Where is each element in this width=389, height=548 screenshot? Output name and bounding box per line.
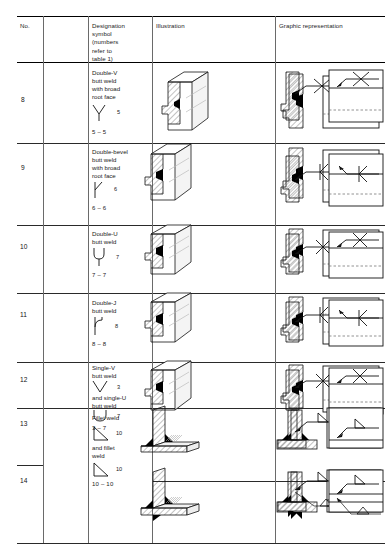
row-11-symbolic-plan bbox=[327, 296, 389, 352]
row-8-pair: 5 – 5 bbox=[92, 129, 106, 135]
row-13-fillet-symbol-icon bbox=[91, 426, 113, 442]
header-no-label: No. bbox=[20, 22, 30, 29]
row-11-double-j-symbol-icon bbox=[91, 316, 113, 336]
row-14-pair-text: 10 – 10 bbox=[92, 481, 113, 487]
row-12-num-1-text: 3 bbox=[117, 384, 120, 390]
row-14-pair: 10 – 10 bbox=[92, 481, 113, 487]
row-14-number: 14 bbox=[20, 477, 27, 484]
row-10-num-text: 7 bbox=[116, 254, 119, 260]
row-9-double-bevel-symbol-icon bbox=[91, 181, 113, 199]
row-11-illustration bbox=[141, 290, 213, 350]
header-designation-line-3: (numbers bbox=[92, 38, 148, 46]
rule-top bbox=[17, 16, 385, 17]
row-8-num-text: 5 bbox=[117, 109, 120, 115]
col-rule-graphic bbox=[275, 16, 276, 543]
header-illustration: Illustration bbox=[156, 22, 266, 30]
row-8-illustration bbox=[158, 68, 230, 140]
row-8-name-2: butt weld bbox=[92, 77, 150, 85]
row-13-symbol-number: 10 bbox=[116, 430, 122, 436]
row-8-name-1: Double-V bbox=[92, 69, 150, 77]
rule-row-13-14-numcol bbox=[17, 465, 43, 466]
row-13-no-text: 13 bbox=[20, 420, 27, 427]
row-12-symbol-number-1: 3 bbox=[117, 384, 120, 390]
header-designation: Designation symbol (numbers refer to tab… bbox=[92, 22, 148, 63]
row-8-symbol-number: 5 bbox=[117, 109, 120, 115]
rule-page-bottom bbox=[17, 543, 385, 544]
row-13-symbolic-plan bbox=[327, 406, 389, 460]
row-8-double-v-symbol-icon bbox=[91, 104, 115, 122]
welding-symbol-table-page: No. Designation symbol (numbers refer to… bbox=[0, 0, 389, 548]
header-graphic: Graphic representation bbox=[279, 22, 389, 30]
row-9-pair-text: 6 – 6 bbox=[92, 205, 106, 211]
col-rule-no bbox=[43, 16, 44, 543]
row-8-symbolic-plan bbox=[327, 66, 389, 130]
row-11-pair-text: 8 – 8 bbox=[92, 341, 106, 347]
row-10-symbol-number: 7 bbox=[116, 254, 119, 260]
row-9-num-text: 6 bbox=[114, 186, 117, 192]
row-13-number: 13 bbox=[20, 420, 27, 427]
row-11-pair: 8 – 8 bbox=[92, 341, 106, 347]
row-13-num-text: 10 bbox=[116, 430, 122, 436]
header-graphic-label: Graphic representation bbox=[279, 22, 343, 29]
row-10-double-u-symbol-icon bbox=[91, 247, 115, 267]
row-14-no-text: 14 bbox=[20, 477, 27, 484]
rule-header-bottom bbox=[17, 62, 385, 63]
row-14-symbolic-plan bbox=[327, 468, 389, 524]
row-14-name-2: weld bbox=[92, 452, 150, 460]
row-9-symbol-number: 6 bbox=[114, 186, 117, 192]
row-9-pair: 6 – 6 bbox=[92, 205, 106, 211]
row-10-no-text: 10 bbox=[20, 243, 27, 250]
row-12-number: 12 bbox=[20, 376, 27, 383]
row-8-number: 8 bbox=[21, 96, 25, 103]
row-9-illustration bbox=[141, 140, 213, 210]
row-11-number: 11 bbox=[20, 311, 27, 318]
header-designation-line-1: Designation bbox=[92, 22, 148, 30]
header-designation-line-5: table 1) bbox=[92, 55, 148, 63]
row-13-illustration bbox=[139, 404, 215, 462]
row-10-pair: 7 – 7 bbox=[92, 272, 106, 278]
row-8-name-4: root face bbox=[92, 93, 150, 101]
row-9-number: 9 bbox=[21, 164, 25, 171]
row-10-number: 10 bbox=[20, 243, 27, 250]
header-no: No. bbox=[20, 22, 42, 30]
row-10-illustration bbox=[141, 222, 213, 282]
row-12-single-v-symbol-icon bbox=[91, 380, 115, 394]
row-9-no-text: 9 bbox=[21, 164, 25, 171]
header-illustration-label: Illustration bbox=[156, 22, 185, 29]
row-12-no-text: 12 bbox=[20, 376, 27, 383]
header-designation-line-4: refer to bbox=[92, 47, 148, 55]
row-14-symbol-number: 10 bbox=[116, 466, 122, 472]
row-8-pair-text: 5 – 5 bbox=[92, 129, 106, 135]
row-14-num-text: 10 bbox=[116, 466, 122, 472]
row-9-symbolic-plan bbox=[327, 150, 389, 214]
row-8-no-text: 8 bbox=[21, 96, 25, 103]
row-14-name-1: and fillet bbox=[92, 444, 150, 452]
col-rule-designation bbox=[88, 16, 89, 543]
row-10-pair-text: 7 – 7 bbox=[92, 272, 106, 278]
row-11-no-text: 11 bbox=[20, 311, 27, 318]
row-8-name-3: with broad bbox=[92, 85, 150, 93]
row-8-designation: Double-V butt weld with broad root face bbox=[92, 69, 150, 101]
row-11-num-text: 8 bbox=[115, 323, 118, 329]
row-11-symbol-number: 8 bbox=[115, 323, 118, 329]
row-10-symbolic-plan bbox=[327, 228, 389, 284]
row-14-designation: and fillet weld bbox=[92, 444, 150, 460]
header-designation-line-2: symbol bbox=[92, 30, 148, 38]
row-14-fillet-symbol-icon bbox=[91, 462, 113, 478]
row-14-illustration bbox=[139, 466, 215, 528]
